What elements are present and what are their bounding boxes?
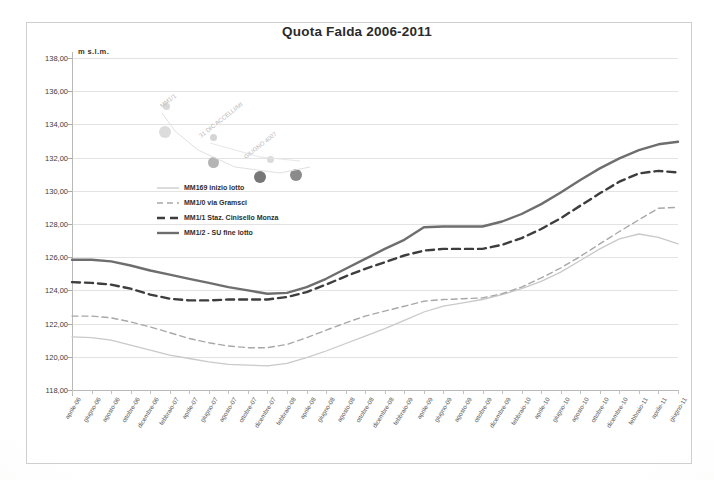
x-axis-tick [365,390,366,394]
y-axis-tick-label: 122,00 [45,319,68,328]
x-axis-tick [541,390,542,394]
x-axis-tick [131,390,132,394]
x-axis-tick [385,390,386,394]
x-axis-tick [443,390,444,394]
y-axis-tick-label: 134,00 [45,120,68,129]
legend-label: MM1/2 - SU fine lotto [184,229,253,236]
x-axis-tick [346,390,347,394]
y-axis-tick-label: 128,00 [45,220,68,229]
x-axis-tick [189,390,190,394]
y-axis-tick-label: 118,00 [46,386,68,395]
x-axis-tick [228,390,229,394]
x-axis-tick [267,390,268,394]
x-axis-tick [92,390,93,394]
legend-item[interactable]: MM1/2 - SU fine lotto [157,225,307,240]
y-axis-unit-label: m s.l.m. [78,47,109,56]
x-axis-tick [522,390,523,394]
x-axis-tick [287,390,288,394]
legend-item[interactable]: MM169 inizio lotto [157,180,307,195]
y-axis-tick-label: 130,00 [45,186,68,195]
x-axis-line [72,390,678,391]
x-axis-tick [209,390,210,394]
x-axis-tick [248,390,249,394]
legend-item[interactable]: MM1/1 Staz. Cinisello Monza [157,210,307,225]
x-axis-tick [111,390,112,394]
legend-swatch-icon [157,213,179,223]
legend-swatch-icon [157,228,179,238]
x-axis-tick [150,390,151,394]
y-axis-tick-label: 120,00 [45,352,68,361]
x-axis-tick [72,390,73,394]
legend-item[interactable]: MM1/0 via Gramsci [157,195,307,210]
x-axis-tick [424,390,425,394]
x-axis-tick [483,390,484,394]
x-axis-tick [326,390,327,394]
x-axis-tick [307,390,308,394]
chart-page: Quota Falda 2006-2011 m s.l.m. 138,00136… [0,0,714,480]
x-axis-tick [502,390,503,394]
legend-label: MM169 inizio lotto [184,184,244,191]
y-axis-tick-label: 126,00 [45,253,68,262]
y-axis-tick-label: 138,00 [45,54,68,63]
legend-swatch-icon [157,183,179,193]
x-axis-tick [463,390,464,394]
x-axis-tick [170,390,171,394]
chart-title: Quota Falda 2006-2011 [0,24,714,39]
y-axis-tick-label: 136,00 [45,87,68,96]
y-axis-labels: 138,00136,00134,00132,00130,00128,00126,… [0,0,68,480]
y-axis-tick-label: 132,00 [45,153,68,162]
x-axis-tick [561,390,562,394]
legend-label: MM1/0 via Gramsci [184,199,247,206]
x-axis-tick [658,390,659,394]
y-axis-tick-label: 124,00 [45,286,68,295]
x-axis-tick [600,390,601,394]
legend-swatch-icon [157,198,179,208]
legend-label: MM1/1 Staz. Cinisello Monza [184,214,279,221]
x-axis-tick [580,390,581,394]
x-axis-tick [678,390,679,394]
x-axis-tick [404,390,405,394]
x-axis-tick [639,390,640,394]
chart-legend: MM169 inizio lottoMM1/0 via GramsciMM1/1… [157,180,307,240]
x-axis-tick [619,390,620,394]
